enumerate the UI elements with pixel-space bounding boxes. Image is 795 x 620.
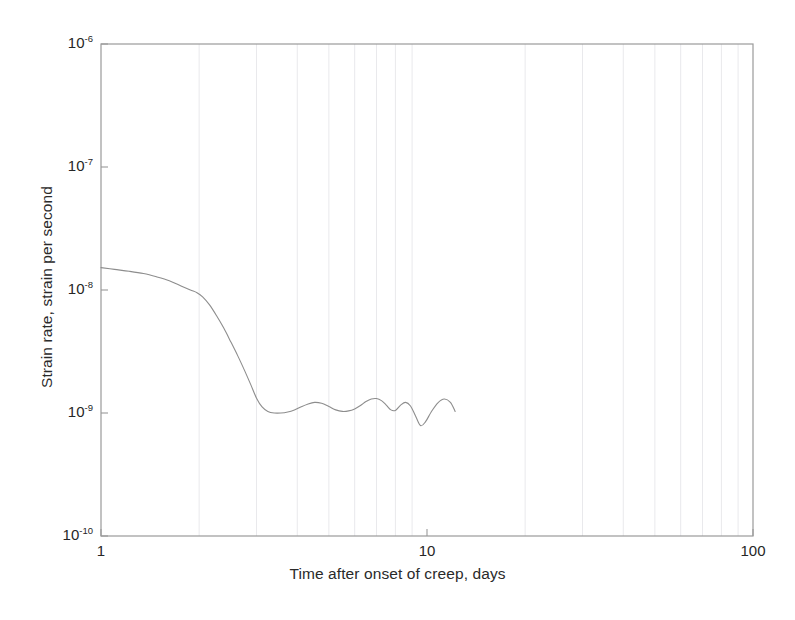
y-tick-label: 10-9: [68, 403, 93, 420]
y-tick-exponent: -8: [85, 279, 93, 290]
data-series-group: [101, 268, 455, 426]
y-tick-exponent: -9: [85, 402, 93, 413]
x-axis-title: Time after onset of creep, days: [0, 565, 795, 583]
y-tick-label: 10-7: [68, 157, 93, 174]
strain-rate-vs-time-plot: [0, 0, 795, 620]
y-tick-exponent: -6: [85, 33, 93, 44]
grid-lines: [199, 44, 738, 536]
x-tick-label: 1: [71, 542, 131, 559]
y-tick-mantissa: 10: [68, 280, 85, 297]
y-tick-exponent: -7: [85, 156, 93, 167]
y-tick-exponent: -10: [79, 525, 93, 536]
y-tick-mantissa: 10: [63, 526, 80, 543]
x-tick-label: 10: [397, 542, 457, 559]
y-tick-mantissa: 10: [68, 157, 85, 174]
x-tick-label: 100: [723, 542, 783, 559]
y-tick-mantissa: 10: [68, 403, 85, 420]
y-tick-label: 10-6: [68, 34, 93, 51]
chart-figure: 10-610-710-810-910-10 110100 Time after …: [0, 0, 795, 620]
y-tick-label: 10-10: [63, 526, 93, 543]
y-axis-title: Strain rate, strain per second: [38, 122, 56, 452]
y-tick-label: 10-8: [68, 280, 93, 297]
y-tick-mantissa: 10: [68, 34, 85, 51]
